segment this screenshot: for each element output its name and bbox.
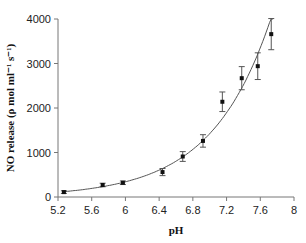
point-marker [121, 181, 125, 185]
point-marker [240, 76, 244, 80]
y-tick-label: 2000 [27, 102, 51, 114]
x-tick-label: 6.4 [151, 204, 166, 216]
point-marker [256, 64, 260, 68]
data-point [100, 183, 106, 187]
data-point [219, 92, 225, 112]
data-point [239, 67, 245, 90]
point-marker [101, 183, 105, 187]
data-point [255, 53, 261, 80]
x-tick-label: 7.6 [253, 204, 268, 216]
x-tick-label: 5.2 [50, 204, 65, 216]
y-tick-label: 3000 [27, 58, 51, 70]
x-tick-label: 6 [122, 204, 128, 216]
point-marker [269, 32, 273, 36]
point-marker [161, 170, 165, 174]
y-tick-label: 1000 [27, 147, 51, 159]
point-marker [62, 190, 66, 194]
x-tick-label: 8 [291, 204, 297, 216]
fit-curve [62, 19, 273, 192]
data-point [61, 190, 67, 194]
y-tick-label: 0 [45, 191, 51, 203]
axes: 5.25.666.46.87.27.6801000200030004000 [27, 13, 298, 216]
x-axis-title: pH [169, 224, 184, 236]
data-point [200, 135, 206, 147]
x-tick-label: 5.6 [84, 204, 99, 216]
data-points [61, 19, 274, 195]
data-point [180, 152, 186, 162]
y-tick-label: 4000 [27, 13, 51, 25]
point-marker [220, 100, 224, 104]
point-marker [201, 139, 205, 143]
y-axis-title: NO release (ρ mol ml⁻¹ s⁻¹) [4, 43, 17, 172]
chart: 5.25.666.46.87.27.6801000200030004000 pH… [0, 0, 306, 243]
fit-line [62, 19, 273, 192]
x-tick-label: 7.2 [219, 204, 234, 216]
x-tick-label: 6.8 [185, 204, 200, 216]
point-marker [181, 155, 185, 159]
